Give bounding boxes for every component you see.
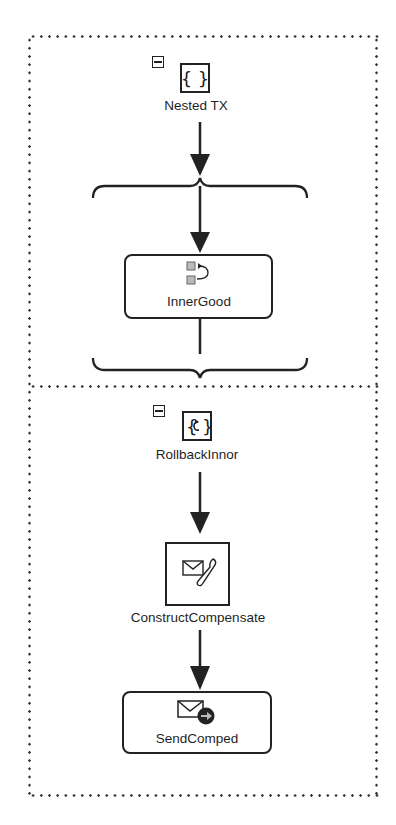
activity-send-comped[interactable]: SendComped [122,691,272,754]
scope-node-nested-tx[interactable]: { } [180,63,210,93]
outer-border-top [29,35,379,38]
sequence-end-brace [90,356,330,386]
send-message-icon [176,698,226,728]
activity-inner-good[interactable]: InnerGood [124,254,273,319]
outer-border-right [375,36,378,796]
connector-line [195,319,205,359]
collapse-toggle-nested-tx[interactable] [152,56,164,68]
outer-border-bottom [29,794,379,797]
scope-label-nested-tx: Nested TX [96,98,296,113]
svg-text:}: } [202,416,213,437]
scope-label-rollback-innor: RollbackInnor [97,447,297,462]
braces-icon: { } [180,63,210,93]
arrow-connector [180,184,220,254]
activity-label-construct-compensate: ConstructCompensate [98,610,298,625]
activity-construct-compensate[interactable] [165,542,230,606]
arrow-connector [180,466,220,546]
svg-text:{ }: { } [180,68,209,89]
outer-border-left [28,36,31,796]
assign-copy-icon [186,260,226,290]
activity-label-inner-good: InnerGood [99,294,299,309]
construct-message-icon [181,557,221,591]
compensate-scope-icon: { } [182,411,212,441]
collapse-toggle-rollback-innor[interactable] [153,405,165,417]
svg-text:{: { [186,416,197,437]
scope-node-rollback-innor[interactable]: { } [182,411,212,441]
activity-label-send-comped: SendComped [97,731,297,746]
